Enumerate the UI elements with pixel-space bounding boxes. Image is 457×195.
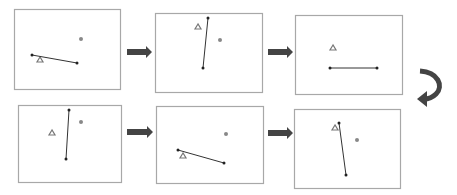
line-endpoint — [376, 67, 379, 70]
right-arrow-icon — [127, 46, 152, 58]
frame-1 — [15, 10, 121, 90]
circle-marker — [79, 120, 83, 124]
line-endpoint — [68, 109, 71, 112]
line-endpoint — [338, 122, 341, 125]
frame-6 — [295, 110, 401, 189]
line-endpoint — [202, 67, 205, 70]
right-arrow-icon — [127, 126, 153, 138]
frame-sequence-diagram — [0, 0, 457, 195]
frame-4 — [19, 106, 122, 183]
circle-marker — [79, 37, 83, 41]
line-endpoint — [76, 62, 79, 65]
line-endpoint — [207, 17, 210, 20]
line-endpoint — [31, 54, 34, 57]
line-endpoint — [65, 158, 68, 161]
line-endpoint — [329, 67, 332, 70]
line-endpoint — [223, 162, 226, 165]
right-arrow-icon — [268, 46, 293, 58]
frame-2 — [156, 14, 263, 93]
line-endpoint — [345, 174, 348, 177]
circle-marker — [224, 132, 228, 136]
frame-3 — [296, 16, 403, 95]
curved-arrow-head-icon — [417, 91, 427, 107]
circle-marker — [218, 38, 222, 42]
circle-marker — [355, 138, 359, 142]
right-arrow-icon — [268, 127, 293, 139]
frame-5 — [157, 107, 264, 184]
line-endpoint — [177, 149, 180, 152]
